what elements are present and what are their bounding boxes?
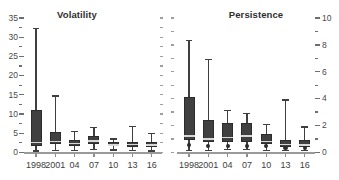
y-tick-major bbox=[19, 133, 24, 134]
y-tick-label: 8 bbox=[322, 41, 339, 50]
y-tick-inner bbox=[171, 111, 174, 112]
boxplot-whisker-cap-upper bbox=[282, 99, 289, 100]
y-tick-inner bbox=[160, 17, 163, 18]
y-tick-minor bbox=[315, 31, 318, 32]
y-tick-inner bbox=[160, 142, 163, 143]
y-tick-label: 25 bbox=[0, 52, 18, 61]
y-tick-inner bbox=[160, 123, 163, 124]
boxplot-median bbox=[222, 137, 233, 139]
y-tick-major bbox=[19, 94, 24, 95]
boxplot-whisker-cap-upper bbox=[224, 110, 231, 111]
x-tick bbox=[35, 154, 36, 158]
y-tick-major bbox=[315, 44, 320, 45]
y-tick-minor bbox=[19, 46, 22, 47]
boxplot-whisker-cap-upper bbox=[129, 126, 136, 127]
y-tick-inner bbox=[171, 71, 174, 72]
boxplot-whisker-cap-upper bbox=[33, 28, 40, 29]
y-tick-label: 6 bbox=[322, 68, 339, 77]
y-tick-inner bbox=[160, 65, 163, 66]
panel-volatility: Volatility 05101520253035 19982001040710… bbox=[0, 0, 170, 180]
y-tick-major bbox=[315, 17, 320, 18]
y-tick-minor bbox=[315, 111, 318, 112]
boxplot-box bbox=[222, 123, 233, 142]
y-tick-inner bbox=[171, 58, 174, 59]
x-tick bbox=[208, 154, 209, 158]
boxplot-outlier-point bbox=[206, 144, 210, 148]
y-tick-label: 4 bbox=[322, 94, 339, 103]
boxplot-whisker-cap-upper bbox=[90, 127, 97, 128]
boxplot-box bbox=[184, 97, 195, 140]
boxplot-box bbox=[31, 110, 42, 146]
y-tick-minor bbox=[19, 27, 22, 28]
boxplot-whisker-cap-upper bbox=[186, 40, 193, 41]
x-tick-label: 16 bbox=[138, 160, 166, 170]
boxplot-median bbox=[31, 142, 42, 144]
boxplot-outlier-point bbox=[264, 144, 268, 148]
boxplot-box bbox=[241, 123, 252, 142]
boxplot-whisker-cap-lower bbox=[129, 150, 136, 151]
y-tick-inner bbox=[160, 104, 163, 105]
boxplot-median bbox=[146, 144, 157, 146]
y-tick-inner bbox=[171, 17, 174, 18]
y-tick-label: 0 bbox=[322, 148, 339, 157]
boxplot-whisker-cap-lower bbox=[205, 150, 212, 151]
boxplot-median bbox=[203, 138, 214, 140]
boxplot-median bbox=[241, 135, 252, 137]
boxplot-whisker-cap-lower bbox=[263, 150, 270, 151]
boxplot-whisker-cap-lower bbox=[52, 150, 59, 151]
boxplot-outlier-point bbox=[303, 146, 307, 150]
y-tick-major bbox=[315, 98, 320, 99]
x-tick bbox=[304, 154, 305, 158]
boxplot-outlier-point bbox=[226, 144, 230, 148]
boxplot-whisker-cap-upper bbox=[301, 126, 308, 127]
y-tick-minor bbox=[315, 138, 318, 139]
x-tick bbox=[74, 154, 75, 158]
y-tick-minor bbox=[19, 104, 22, 105]
boxplot-outlier-point bbox=[187, 143, 191, 147]
boxplot-whisker-cap-lower bbox=[243, 149, 250, 150]
boxplot-whisker-cap-lower bbox=[224, 149, 231, 150]
y-tick-major bbox=[19, 37, 24, 38]
boxplot-median bbox=[261, 141, 272, 143]
panel-persistence: Persistence 0246810 199820010407101316 bbox=[169, 0, 339, 180]
boxplot-figure: Volatility 05101520253035 19982001040710… bbox=[0, 0, 339, 180]
boxplot-whisker-cap-lower bbox=[301, 150, 308, 151]
x-tick bbox=[132, 154, 133, 158]
boxplot-whisker-cap-lower bbox=[110, 149, 117, 150]
boxplot-median bbox=[88, 140, 99, 142]
boxplot-outlier-point bbox=[283, 146, 287, 150]
y-tick-inner bbox=[171, 44, 174, 45]
boxplot-median bbox=[184, 135, 195, 137]
y-tick-minor bbox=[19, 85, 22, 86]
x-tick bbox=[93, 154, 94, 158]
boxplot-whisker-cap-lower bbox=[90, 149, 97, 150]
y-tick-label: 15 bbox=[0, 91, 18, 100]
y-tick-major bbox=[19, 17, 24, 18]
boxplot-box bbox=[261, 134, 272, 145]
boxplot-whisker-cap-upper bbox=[205, 59, 212, 60]
y-tick-inner bbox=[171, 152, 174, 153]
boxplot-median bbox=[127, 144, 138, 146]
y-tick-major bbox=[315, 71, 320, 72]
boxplot-whisker-cap-lower bbox=[148, 150, 155, 151]
y-tick-inner bbox=[160, 152, 163, 153]
x-tick bbox=[266, 154, 267, 158]
boxplot-whisker-cap-lower bbox=[71, 150, 78, 151]
y-tick-minor bbox=[315, 58, 318, 59]
boxplot-whisker-cap-lower bbox=[33, 150, 40, 151]
y-tick-major bbox=[19, 152, 24, 153]
plot-area-persistence: 0246810 199820010407101316 bbox=[169, 0, 339, 180]
boxplot-whisker-cap-upper bbox=[110, 138, 117, 139]
x-tick bbox=[285, 154, 286, 158]
x-tick bbox=[55, 154, 56, 158]
y-tick-label: 0 bbox=[0, 148, 18, 157]
x-tick bbox=[113, 154, 114, 158]
y-tick-inner bbox=[171, 138, 174, 139]
y-tick-inner bbox=[160, 113, 163, 114]
y-tick-inner bbox=[171, 31, 174, 32]
x-tick bbox=[246, 154, 247, 158]
boxplot-whisker-cap-upper bbox=[71, 131, 78, 132]
y-tick-inner bbox=[160, 94, 163, 95]
plot-area-volatility: 05101520253035 199820010407101316 bbox=[0, 0, 170, 180]
y-tick-minor bbox=[19, 123, 22, 124]
